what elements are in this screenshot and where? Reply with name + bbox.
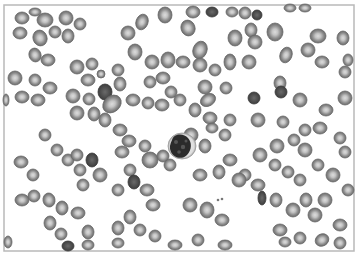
- red-blood-cell: [112, 184, 124, 196]
- red-blood-cell: [284, 4, 296, 12]
- red-blood-cell: [142, 152, 158, 168]
- nuclear-granule: [181, 145, 185, 149]
- red-blood-cell: [253, 148, 267, 162]
- red-blood-cell: [71, 149, 83, 161]
- red-blood-cell: [342, 184, 354, 196]
- red-blood-cell: [144, 76, 156, 88]
- red-blood-cell: [242, 55, 256, 69]
- nuclear-granule: [185, 140, 188, 143]
- red-blood-cell: [315, 56, 329, 68]
- red-blood-cell: [198, 80, 212, 94]
- red-blood-cell: [74, 18, 86, 30]
- red-blood-cell: [267, 23, 283, 41]
- red-blood-cell: [114, 77, 126, 91]
- red-blood-cell: [239, 7, 251, 19]
- red-blood-cell: [226, 7, 238, 17]
- blood-smear-micrograph: [0, 0, 360, 255]
- red-blood-cell: [112, 238, 124, 248]
- red-blood-cell: [15, 12, 29, 24]
- red-blood-cell: [13, 27, 27, 39]
- red-blood-cell: [139, 140, 151, 152]
- red-blood-cell: [270, 139, 284, 153]
- red-blood-cell: [49, 26, 61, 38]
- red-blood-cell: [288, 134, 300, 146]
- red-blood-cell: [122, 135, 136, 147]
- red-blood-cell: [301, 43, 315, 57]
- red-blood-cell: [15, 194, 29, 206]
- red-blood-cell: [4, 236, 12, 248]
- red-blood-cell: [298, 143, 312, 157]
- red-blood-cell: [149, 230, 161, 242]
- red-blood-cell: [339, 146, 351, 158]
- red-blood-cell: [176, 56, 190, 68]
- dense-red-blood-cell: [128, 175, 140, 189]
- dense-red-blood-cell: [86, 153, 98, 167]
- red-blood-cell: [209, 64, 221, 76]
- red-blood-cell: [155, 99, 169, 111]
- red-blood-cell: [218, 240, 232, 250]
- red-blood-cell: [220, 82, 232, 94]
- red-blood-cell: [97, 70, 105, 78]
- red-blood-cell: [81, 74, 95, 86]
- dense-red-blood-cell: [258, 191, 266, 205]
- red-blood-cell: [269, 159, 281, 171]
- red-blood-cell: [318, 193, 332, 207]
- red-blood-cell: [186, 6, 200, 18]
- red-blood-cell: [126, 94, 140, 106]
- red-blood-cell: [93, 168, 107, 182]
- dense-red-blood-cell: [252, 10, 262, 20]
- red-blood-cell: [294, 232, 306, 244]
- red-blood-cell: [66, 89, 80, 103]
- red-blood-cell: [31, 94, 45, 106]
- red-blood-cell: [189, 103, 201, 117]
- red-blood-cell: [294, 174, 306, 186]
- red-blood-cell: [200, 202, 214, 218]
- red-blood-cell: [142, 97, 154, 109]
- red-blood-cell: [270, 193, 282, 207]
- dense-red-blood-cell: [62, 241, 74, 251]
- red-blood-cell: [224, 54, 236, 70]
- red-blood-cell: [124, 164, 136, 176]
- red-blood-cell: [251, 179, 265, 191]
- red-blood-cell: [300, 193, 312, 207]
- red-blood-cell: [215, 214, 229, 226]
- red-blood-cell: [333, 219, 347, 231]
- red-blood-cell: [213, 165, 225, 179]
- red-blood-cell: [282, 166, 294, 178]
- white-blood-cell: [168, 133, 196, 159]
- red-blood-cell: [124, 210, 136, 224]
- red-blood-cell: [161, 52, 175, 68]
- red-blood-cell: [293, 93, 307, 107]
- red-blood-cell: [279, 237, 291, 247]
- red-blood-cell: [334, 132, 346, 144]
- red-blood-cell: [70, 60, 84, 74]
- red-blood-cell: [199, 139, 211, 153]
- red-blood-cell: [192, 234, 204, 246]
- red-blood-cell: [83, 93, 95, 105]
- platelet: [221, 198, 224, 201]
- red-blood-cell: [193, 58, 207, 72]
- red-blood-cell: [248, 35, 262, 49]
- red-blood-cell: [224, 114, 236, 126]
- red-blood-cell: [174, 94, 186, 106]
- dense-red-blood-cell: [248, 92, 260, 104]
- red-blood-cell: [82, 225, 94, 239]
- red-blood-cell: [140, 184, 154, 196]
- red-blood-cell: [343, 54, 353, 66]
- red-blood-cell: [232, 173, 246, 187]
- red-blood-cell: [337, 31, 349, 45]
- red-blood-cell: [193, 169, 207, 181]
- red-blood-cell: [312, 159, 324, 171]
- red-blood-cell: [156, 72, 170, 84]
- red-blood-cell: [62, 29, 74, 43]
- red-blood-cell: [71, 207, 85, 219]
- red-blood-cell: [44, 216, 56, 230]
- red-blood-cell: [168, 240, 182, 250]
- red-blood-cell: [41, 54, 55, 66]
- red-blood-cell: [55, 228, 67, 240]
- red-blood-cell: [219, 129, 231, 141]
- red-blood-cell: [338, 91, 352, 105]
- red-blood-cell: [43, 82, 57, 94]
- dense-red-blood-cell: [206, 7, 218, 17]
- red-blood-cell: [339, 66, 351, 78]
